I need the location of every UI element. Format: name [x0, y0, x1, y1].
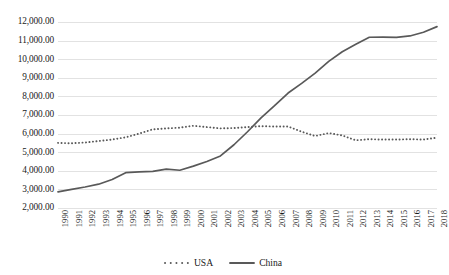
x-tick-label: 2011	[346, 210, 355, 227]
x-tick-label: 2009	[319, 210, 328, 227]
dotted-line-swatch	[164, 259, 190, 267]
x-tick-label: 2018	[440, 210, 449, 227]
x-tick-label: 2006	[278, 210, 287, 227]
legend-label: China	[259, 258, 282, 268]
x-tick-label: 2008	[305, 210, 314, 227]
x-tick-label: 1990	[61, 210, 70, 227]
x-tick-label: 1997	[156, 210, 165, 227]
x-tick-label: 1996	[143, 210, 152, 227]
x-tick-label: 1998	[170, 210, 179, 227]
y-tick-label: 2,000.00	[22, 203, 54, 212]
x-tick-label: 2005	[264, 210, 273, 227]
series-line-china	[58, 27, 437, 192]
x-tick-label: 2003	[237, 210, 246, 227]
solid-line-swatch	[229, 259, 255, 267]
legend-item-china[interactable]: China	[229, 258, 282, 268]
x-tick-label: 2015	[400, 210, 409, 227]
y-tick-label: 4,000.00	[22, 166, 54, 175]
y-tick-label: 11,000.00	[18, 36, 54, 45]
x-tick-label: 2014	[386, 210, 395, 227]
y-tick-label: 12,000.00	[18, 17, 54, 26]
y-tick-label: 3,000.00	[22, 185, 54, 194]
x-tick-label: 2001	[210, 210, 219, 227]
x-tick-label: 1994	[116, 210, 125, 227]
y-axis: 12,000.0011,000.0010,000.009,000.008,000…	[0, 0, 58, 215]
x-tick-label: 2010	[332, 210, 341, 227]
x-tick-label: 1991	[75, 210, 84, 227]
x-tick-label: 1995	[129, 210, 138, 227]
y-tick-label: 7,000.00	[22, 110, 54, 119]
y-tick-label: 6,000.00	[22, 129, 54, 138]
x-tick-label: 2013	[373, 210, 382, 227]
plot-area	[58, 22, 437, 208]
x-tick-label: 2016	[413, 210, 422, 227]
x-tick-label: 2000	[197, 210, 206, 227]
y-tick-label: 5,000.00	[22, 148, 54, 157]
x-tick-label: 2012	[359, 210, 368, 227]
x-tick-label: 2004	[251, 210, 260, 227]
x-axis: 1990199119921993199419951996199719981999…	[58, 210, 437, 254]
x-tick-label: 2002	[224, 210, 233, 227]
y-tick-label: 9,000.00	[22, 73, 54, 82]
chart-legend: USAChina	[0, 255, 446, 271]
y-tick-label: 8,000.00	[22, 92, 54, 101]
x-tick-label: 1993	[102, 210, 111, 227]
x-tick-label: 2017	[427, 210, 436, 227]
gridline	[58, 208, 437, 209]
series-layer	[58, 22, 437, 208]
legend-label: USA	[194, 258, 213, 268]
x-tick-label: 1992	[88, 210, 97, 227]
x-tick-label: 2007	[292, 210, 301, 227]
x-tick-label: 1999	[183, 210, 192, 227]
y-tick-label: 10,000.00	[18, 55, 54, 64]
legend-item-usa[interactable]: USA	[164, 258, 213, 268]
series-line-usa	[58, 126, 437, 143]
